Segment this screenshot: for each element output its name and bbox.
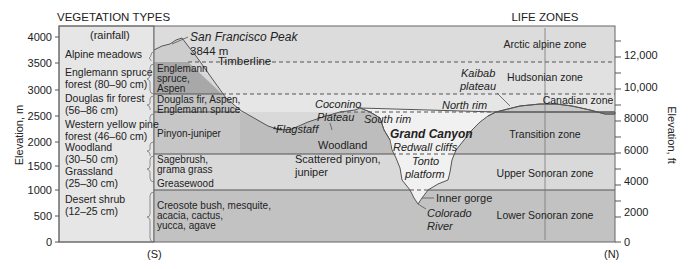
svg-text:Transition zone: Transition zone [509,128,581,140]
svg-text:Grassland: Grassland [65,165,113,177]
timberline-label: Timberline [218,55,271,67]
left-axis-tick-labels: 4000 3500 3000 2500 2000 1500 1000 500 0 [28,31,52,248]
kaibab-plateau-label: plateau [459,80,496,92]
south-marker: (S) [147,248,162,260]
right-axis-tick-labels: 12,000 10,000 8000 6000 4000 2000 0 [624,49,658,248]
svg-text:Alpine meadows: Alpine meadows [65,48,142,60]
svg-text:Lower Sonoran zone: Lower Sonoran zone [497,209,594,221]
svg-text:Canadian zone: Canadian zone [543,94,614,106]
svg-text:4000: 4000 [624,175,648,187]
right-axis-ticks [615,41,621,242]
svg-text:Arctic alpine zone: Arctic alpine zone [504,38,587,50]
svg-text:(30–50 cm): (30–50 cm) [65,153,118,165]
plateau-label: Plateau [317,111,354,123]
svg-text:3500: 3500 [28,57,52,69]
svg-text:3000: 3000 [28,84,52,96]
vegetation-types-header: VEGETATION TYPES [57,11,170,23]
san-francisco-peak-label: San Francisco Peak [190,30,298,44]
river-label-2: River [427,220,454,232]
south-rim-label: South rim [364,113,411,125]
svg-text:Woodland: Woodland [65,141,112,153]
svg-text:Hudsonian zone: Hudsonian zone [507,71,583,83]
svg-text:2500: 2500 [28,110,52,122]
flagstaff-label: Flagstaff [276,123,319,135]
svg-text:6000: 6000 [624,144,648,156]
svg-text:Pinyon-juniper: Pinyon-juniper [157,128,222,139]
coconino-label: Coconino [315,98,361,110]
svg-text:1500: 1500 [28,160,52,172]
north-rim-label: North rim [442,99,487,111]
juniper-label: juniper [294,166,328,178]
svg-text:10,000: 10,000 [624,81,658,93]
redwall-cliffs-label: Redwall cliffs [393,141,458,153]
right-axis-label: Elevation, ft [666,106,678,163]
scattered-pinyon-label: Scattered pinyon, [295,153,381,165]
rainfall-subheader: (rainfall) [90,29,130,41]
inner-gorge-label: Inner gorge [436,192,492,204]
left-axis-ticks [55,37,59,242]
left-axis-label: Elevation, m [13,105,25,166]
svg-text:Greasewood: Greasewood [157,178,214,189]
svg-text:Desert shrub: Desert shrub [65,193,125,205]
svg-text:forest (80–90 cm): forest (80–90 cm) [65,78,147,90]
svg-text:(12–25 cm): (12–25 cm) [65,205,118,217]
woodland-label: Woodland [318,139,367,151]
grand-canyon-label: Grand Canyon [390,127,473,141]
svg-text:500: 500 [34,210,52,222]
svg-text:grama grass: grama grass [157,164,213,175]
svg-text:Douglas fir forest: Douglas fir forest [65,92,144,104]
tonto-label: Tonto [412,155,439,167]
svg-text:(56–86 cm): (56–86 cm) [65,104,118,116]
svg-text:4000: 4000 [28,31,52,43]
svg-text:0: 0 [46,236,52,248]
svg-text:(25–30 cm): (25–30 cm) [65,177,118,189]
svg-text:Upper Sonoran zone: Upper Sonoran zone [497,167,594,179]
kaibab-label: Kaibab [461,67,495,79]
north-marker: (N) [604,248,619,260]
svg-text:Aspen: Aspen [157,83,185,94]
svg-text:8000: 8000 [624,112,648,124]
colorado-label: Colorado [427,207,472,219]
svg-text:12,000: 12,000 [624,49,658,61]
svg-text:Englemann spruce: Englemann spruce [65,66,153,78]
svg-text:yucca, agave: yucca, agave [157,220,216,231]
svg-text:1000: 1000 [28,184,52,196]
svg-text:2000: 2000 [624,206,648,218]
svg-text:Western yellow pine: Western yellow pine [65,118,159,130]
platform-label: platform [404,168,445,180]
life-zones-header: LIFE ZONES [511,11,578,23]
svg-text:0: 0 [624,236,630,248]
svg-text:2000: 2000 [28,136,52,148]
svg-text:Englemann spruce: Englemann spruce [157,104,241,115]
